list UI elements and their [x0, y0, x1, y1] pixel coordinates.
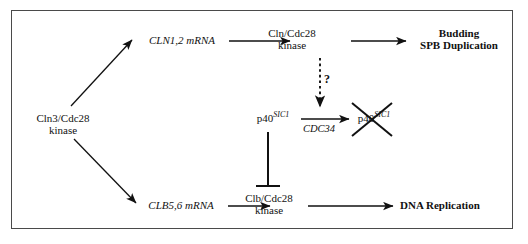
node-cln3-cdc28-line2: kinase: [18, 124, 108, 136]
node-dna-replication: DNA Replication: [400, 199, 520, 211]
edge-label-cdc34: CDC34: [303, 123, 335, 134]
node-p40-sic1-base: p40: [257, 112, 274, 124]
node-p40-sic1-degraded: p40SIC1: [345, 112, 403, 124]
node-clb-cdc28-kinase: Clb/Cdc28 kinase: [224, 192, 314, 217]
node-cln-cdc28-line1: Cln/Cdc28: [247, 27, 337, 39]
node-cln-cdc28-kinase: Cln/Cdc28 kinase: [247, 27, 337, 52]
edge-label-question-mark: ?: [324, 72, 330, 87]
node-p40-sic1: p40SIC1: [244, 112, 302, 124]
node-budding-line2: SPB Duplication: [404, 39, 514, 51]
node-clb-cdc28-line2: kinase: [224, 204, 314, 216]
node-cln-cdc28-line2: kinase: [247, 39, 337, 51]
diagram-figure: (dashed, down to CDC34 arrow) --> crosse…: [0, 0, 528, 244]
node-p40-sic1-degraded-base: p40: [358, 112, 375, 124]
node-clb-cdc28-line1: Clb/Cdc28: [224, 192, 314, 204]
node-cln12-mrna: CLN1,2 mRNA: [134, 34, 230, 46]
node-budding-line1: Budding: [404, 27, 514, 39]
node-clb56-mrna: CLB5,6 mRNA: [132, 199, 230, 211]
node-p40-sic1-degraded-superscript: SIC1: [374, 110, 390, 119]
node-cln3-cdc28-kinase: Cln3/Cdc28 kinase: [18, 112, 108, 137]
node-p40-sic1-superscript: SIC1: [273, 110, 289, 119]
node-budding-spb-duplication: Budding SPB Duplication: [404, 27, 514, 52]
node-cln3-cdc28-line1: Cln3/Cdc28: [18, 112, 108, 124]
